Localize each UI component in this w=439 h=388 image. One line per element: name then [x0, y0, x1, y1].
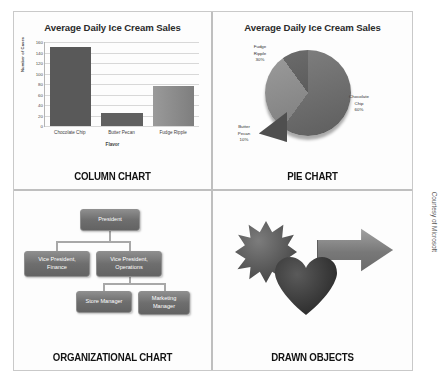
panel-drawn-objects: DRAWN OBJECTS — [213, 191, 412, 370]
org-node-store-manager[interactable]: Store Manager — [76, 291, 132, 313]
org-node-president[interactable]: President — [80, 209, 140, 231]
connector-to-marketing-manager — [164, 283, 166, 291]
org-node-marketing-manager[interactable]: MarketingManager — [138, 291, 190, 315]
bar-chocolate-chip — [50, 47, 92, 126]
y-tick-label: 160 — [36, 40, 43, 45]
org-node-vice-president-finance[interactable]: Vice President,Finance — [24, 251, 90, 277]
connector-to-vp-finance — [56, 241, 58, 251]
x-axis-label: Flavor — [14, 142, 211, 147]
pie-label-fudge-ripple: FudgeRipple30% — [243, 44, 277, 64]
bar-series — [45, 42, 199, 126]
y-tick-label: 60 — [38, 92, 43, 97]
x-tick-label: Chocolate Chip — [44, 130, 95, 135]
org-chart-diagram: President Vice President,Finance Vice Pr… — [14, 203, 211, 333]
column-chart-axes: 160140120100806040200 — [44, 42, 199, 127]
figure-panel-grid: Average Daily Ice Cream Sales Number of … — [13, 11, 413, 371]
y-tick-label: 80 — [38, 82, 43, 87]
connector-president-down — [109, 231, 111, 241]
pie-chart-plot-area: FudgeRipple30% ChocolateChip60% ButterPe… — [213, 38, 412, 158]
caption-column-chart: COLUMN CHART — [22, 170, 203, 182]
connector-to-vp-operations — [129, 241, 131, 251]
column-chart-title: Average Daily Ice Cream Sales — [14, 22, 211, 33]
courtesy-credit: Courtesy of Microsoft — [431, 192, 438, 252]
connector-to-store-manager — [103, 283, 105, 291]
x-axis-ticks: Chocolate ChipButter PecanFudge Ripple — [44, 130, 199, 135]
y-tick-label: 0 — [41, 124, 43, 129]
connector-horizontal-top — [56, 241, 130, 243]
x-tick-label: Butter Pecan — [96, 130, 147, 135]
y-axis-label: Number of Cases — [20, 37, 25, 72]
connector-horizontal-bottom — [103, 283, 165, 285]
panel-pie-chart: Average Daily Ice Cream Sales FudgeRippl… — [213, 12, 412, 191]
bar-butter-pecan — [101, 113, 143, 126]
panel-organizational-chart: President Vice President,Finance Vice Pr… — [14, 191, 213, 370]
pie-label-chocolate-chip: ChocolateChip60% — [341, 94, 377, 114]
caption-pie-chart: PIE CHART — [221, 170, 404, 182]
caption-drawn-objects: DRAWN OBJECTS — [221, 351, 404, 363]
column-chart-plot-area: Number of Cases 160140120100806040200 Ch… — [14, 38, 211, 156]
x-tick-label: Fudge Ripple — [148, 130, 199, 135]
panel-column-chart: Average Daily Ice Cream Sales Number of … — [14, 12, 213, 191]
org-node-vice-president-operations[interactable]: Vice President,Operations — [96, 251, 162, 277]
gridline — [45, 126, 199, 127]
heart-icon[interactable] — [275, 257, 337, 315]
y-tick-label: 100 — [36, 71, 43, 76]
y-tick-label: 140 — [36, 50, 43, 55]
y-tick-label: 120 — [36, 61, 43, 66]
y-tick-label: 40 — [38, 103, 43, 108]
y-tick-label: 20 — [38, 113, 43, 118]
bar-fudge-ripple — [153, 86, 195, 126]
drawn-objects-canvas — [213, 205, 412, 333]
pie-label-butter-pecan: ButterPecan10% — [227, 124, 261, 144]
caption-organizational-chart: ORGANIZATIONAL CHART — [22, 351, 203, 363]
pie-chart-title: Average Daily Ice Cream Sales — [213, 22, 412, 33]
